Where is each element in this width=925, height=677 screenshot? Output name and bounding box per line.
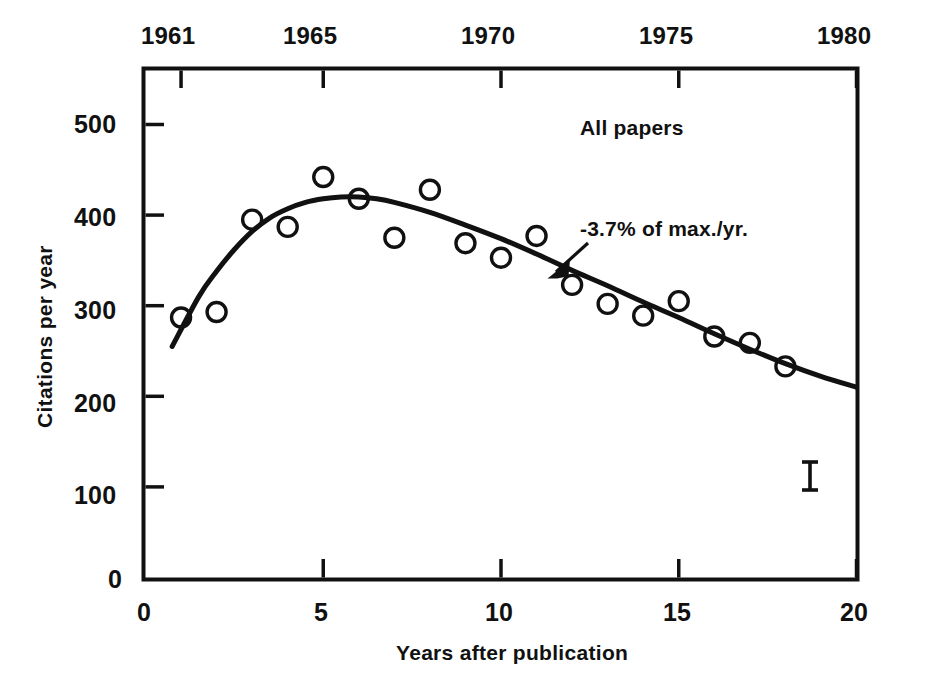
x-tick-label-0: 0 xyxy=(137,598,151,627)
y-tick-label-200: 200 xyxy=(74,389,116,418)
y-axis-title: Citations per year xyxy=(33,245,57,428)
x-tick-label-5: 5 xyxy=(314,598,328,627)
series-label-all-papers: All papers xyxy=(580,116,684,140)
y-tick-label-300: 300 xyxy=(74,296,116,325)
y-tick-label-400: 400 xyxy=(74,203,116,232)
x-tick-label-15: 15 xyxy=(663,598,691,627)
y-tick-label-100: 100 xyxy=(74,481,116,510)
x-tick-label-20: 20 xyxy=(840,598,868,627)
top-tick-label-1980: 1980 xyxy=(817,22,871,50)
top-tick-label-1970: 1970 xyxy=(461,22,515,50)
top-tick-label-1965: 1965 xyxy=(283,22,337,50)
x-tick-label-10: 10 xyxy=(485,598,513,627)
chart-canvas xyxy=(0,0,925,677)
decay-rate-annotation: -3.7% of max./yr. xyxy=(580,217,748,241)
citations-per-year-chart: 1961 1965 1970 1975 1980 500 400 300 200… xyxy=(0,0,925,677)
chart-background xyxy=(0,0,925,677)
x-axis-title: Years after publication xyxy=(396,641,628,665)
y-tick-label-0: 0 xyxy=(108,565,122,594)
top-tick-label-1961: 1961 xyxy=(141,22,195,50)
top-tick-label-1975: 1975 xyxy=(639,22,693,50)
y-tick-label-500: 500 xyxy=(74,110,116,139)
